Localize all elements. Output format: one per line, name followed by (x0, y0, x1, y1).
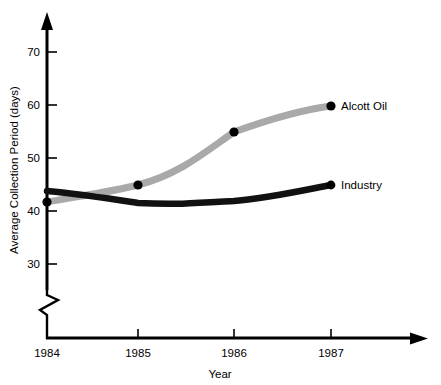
x-axis-arrow-icon (410, 333, 428, 345)
series-label-alcott-oil: Alcott Oil (341, 100, 387, 112)
y-tick-label-70: 70 (27, 46, 40, 58)
data-point-alcott-1987 (326, 101, 335, 110)
x-tick-label-1985: 1985 (125, 347, 151, 359)
chart-container: 70 60 50 40 30 1984 1985 1986 1987 Year … (0, 0, 441, 385)
y-axis-title: Average Collection Period (days) (8, 86, 20, 254)
line-chart: 70 60 50 40 30 1984 1985 1986 1987 Year … (0, 0, 441, 385)
y-tick-label-60: 60 (27, 99, 40, 111)
y-tick-label-30: 30 (27, 258, 40, 270)
data-point-alcott-1984 (42, 197, 51, 206)
series-line-industry (47, 185, 331, 204)
x-tick-labels: 1984 1985 1986 1987 (34, 347, 344, 359)
x-tick-label-1984: 1984 (34, 347, 60, 359)
data-point-alcott-1985 (133, 180, 142, 189)
y-axis-break-icon (40, 290, 58, 339)
y-tick-label-40: 40 (27, 205, 40, 217)
y-tick-label-50: 50 (27, 152, 40, 164)
x-tick-label-1986: 1986 (221, 347, 247, 359)
y-axis-arrow-icon (41, 12, 53, 30)
x-tick-label-1987: 1987 (318, 347, 344, 359)
y-tick-labels: 70 60 50 40 30 (27, 46, 40, 270)
data-point-alcott-1986 (229, 127, 238, 136)
x-axis-title: Year (208, 368, 231, 380)
series-label-industry: Industry (341, 179, 382, 191)
series-line-alcott-oil (47, 106, 331, 202)
data-point-industry-1987 (327, 181, 336, 190)
